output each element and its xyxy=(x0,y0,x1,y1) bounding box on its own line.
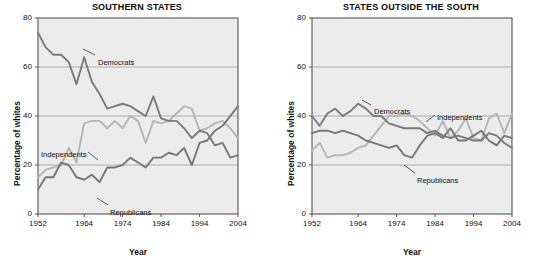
y-axis-label: Percentage of whites xyxy=(12,101,22,186)
ytick-label-80: 80 xyxy=(16,13,32,22)
ytick-label-80: 80 xyxy=(290,13,306,22)
series-annotation-independents-label: Independents xyxy=(41,150,86,159)
xtick-label-1994: 1994 xyxy=(185,219,215,228)
x-axis-label: Year xyxy=(312,247,512,257)
ytick-label-0: 0 xyxy=(290,209,306,218)
xtick-label-1964: 1964 xyxy=(343,219,373,228)
xtick-label-2004: 2004 xyxy=(497,219,527,228)
ytick-label-60: 60 xyxy=(290,62,306,71)
series-annotation-democrats-label: Democrats xyxy=(374,107,410,116)
series-annotation-republicans-label: Republicans xyxy=(110,208,151,217)
xtick-label-1984: 1984 xyxy=(146,219,176,228)
series-annotation-independents-label: Independents xyxy=(437,113,482,122)
y-axis-label: Percentage of whites xyxy=(286,101,296,186)
x-axis-label: Year xyxy=(38,247,238,257)
xtick-label-1952: 1952 xyxy=(297,219,327,228)
ytick-label-60: 60 xyxy=(16,62,32,71)
xtick-label-1964: 1964 xyxy=(69,219,99,228)
series-annotation-republicans-label: Republicans xyxy=(417,176,458,185)
xtick-label-1984: 1984 xyxy=(420,219,450,228)
xtick-label-1952: 1952 xyxy=(23,219,53,228)
figure-root: SOUTHERN STATES0204060801952196419741984… xyxy=(0,0,548,265)
xtick-label-1994: 1994 xyxy=(459,219,489,228)
ytick-label-0: 0 xyxy=(16,209,32,218)
chart-panel-south: SOUTHERN STATES0204060801952196419741984… xyxy=(0,0,274,265)
xtick-label-1974: 1974 xyxy=(108,219,138,228)
xtick-label-2004: 2004 xyxy=(223,219,253,228)
series-annotation-democrats-label: Democrats xyxy=(98,58,134,67)
chart-panel-nonsouth: STATES OUTSIDE THE SOUTH0204060801952196… xyxy=(274,0,548,265)
xtick-label-1974: 1974 xyxy=(382,219,412,228)
